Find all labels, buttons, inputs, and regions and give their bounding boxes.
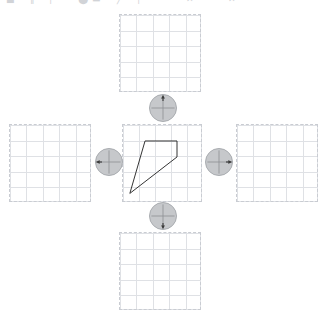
knob-up[interactable] xyxy=(149,94,177,122)
crosshair-arrow-icon xyxy=(206,149,232,175)
crosshair-arrow-icon xyxy=(150,203,176,229)
grid-bottom[interactable] xyxy=(119,232,201,310)
transformation-canvas: ■‖│⬤▬╱│✕✕ xyxy=(0,0,321,320)
grid-right[interactable] xyxy=(236,124,318,202)
shape-quadrilateral[interactable] xyxy=(130,141,177,193)
crosshair-arrow-icon xyxy=(150,95,176,121)
knob-down[interactable] xyxy=(149,202,177,230)
options-tool-icon[interactable]: ✕ xyxy=(228,0,236,4)
fill-tool-icon[interactable]: ⬤ xyxy=(78,0,88,4)
select-tool-icon[interactable]: ✕ xyxy=(186,0,194,4)
line-tool-icon[interactable]: │ xyxy=(48,0,53,4)
eraser-tool-icon[interactable]: ▬ xyxy=(92,0,101,4)
shape-overlay xyxy=(123,125,201,201)
top-toolbar: ■‖│⬤▬╱│✕✕ xyxy=(0,0,321,9)
pen-tool-icon[interactable]: ╱ xyxy=(117,0,122,4)
move-tool-icon[interactable]: ‖ xyxy=(30,0,35,4)
grid-top[interactable] xyxy=(119,14,201,92)
crosshair-arrow-icon xyxy=(96,149,122,175)
grid-left[interactable] xyxy=(9,124,91,202)
shape-tool-icon[interactable]: ■ xyxy=(6,0,15,4)
text-tool-icon[interactable]: │ xyxy=(136,0,141,4)
grid-center[interactable] xyxy=(122,124,202,202)
knob-right[interactable] xyxy=(205,148,233,176)
knob-left[interactable] xyxy=(95,148,123,176)
